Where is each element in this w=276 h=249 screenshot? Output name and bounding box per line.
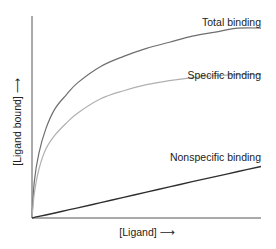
total-binding-label: Total binding [202,16,261,28]
specific-binding-curve [32,75,261,218]
binding-chart: Total binding Specific binding Nonspecif… [0,0,276,249]
nonspecific-binding-label: Nonspecific binding [170,151,261,163]
y-axis-label: [Ligand bound] ⟶ [11,78,23,165]
x-axis-label: [Ligand] ⟶ [119,226,174,238]
specific-binding-label: Specific binding [187,69,261,81]
nonspecific-binding-curve [32,166,261,218]
